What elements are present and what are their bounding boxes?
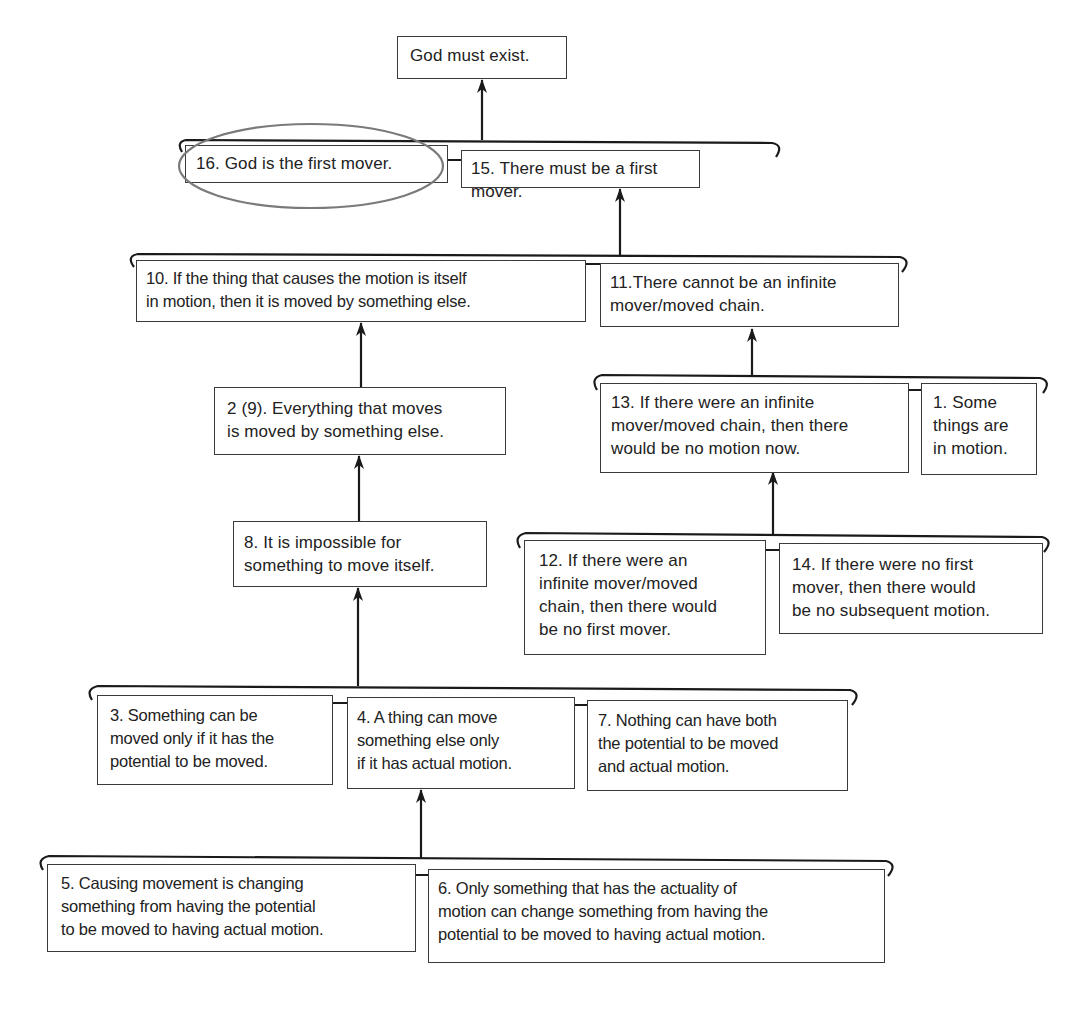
premise-6-box: 6. Only something that has the actuality… <box>428 869 885 963</box>
premise-4-box: 4. A thing can move something else only … <box>347 697 575 789</box>
premise-1-box: 1. Some things are in motion. <box>921 383 1037 475</box>
premise-12-box: 12. If there were an infinite mover/move… <box>524 540 766 655</box>
premise-15-box: 15. There must be a first mover. <box>461 150 700 188</box>
premise-13-box: 13. If there were an infinite mover/move… <box>600 383 909 473</box>
argument-map-canvas: God must exist. 16. God is the first mov… <box>0 0 1089 1019</box>
premise-16-box: 16. God is the first mover. <box>185 145 448 183</box>
premise-5-box: 5. Causing movement is changing somethin… <box>47 864 416 952</box>
premise-11-box: 11.There cannot be an infinite mover/mov… <box>600 263 899 327</box>
premise-14-box: 14. If there were no first mover, then t… <box>779 543 1043 634</box>
premise-8-box: 8. It is impossible for something to mov… <box>233 521 487 587</box>
conclusion-box: God must exist. <box>397 36 567 79</box>
premise-7-box: 7. Nothing can have both the potential t… <box>587 700 848 791</box>
premise-3-box: 3. Something can be moved only if it has… <box>97 695 333 785</box>
premise-10-box: 10. If the thing that causes the motion … <box>136 260 586 322</box>
premise-2-box: 2 (9). Everything that moves is moved by… <box>214 387 506 455</box>
